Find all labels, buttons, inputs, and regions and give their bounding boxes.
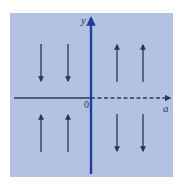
phase-diagram: y a 0 (0, 0, 182, 189)
a-axis-label: a (163, 102, 169, 114)
y-axis-label: y (80, 14, 86, 26)
diagram-svg: y a 0 (0, 0, 182, 189)
origin-label: 0 (84, 99, 89, 110)
